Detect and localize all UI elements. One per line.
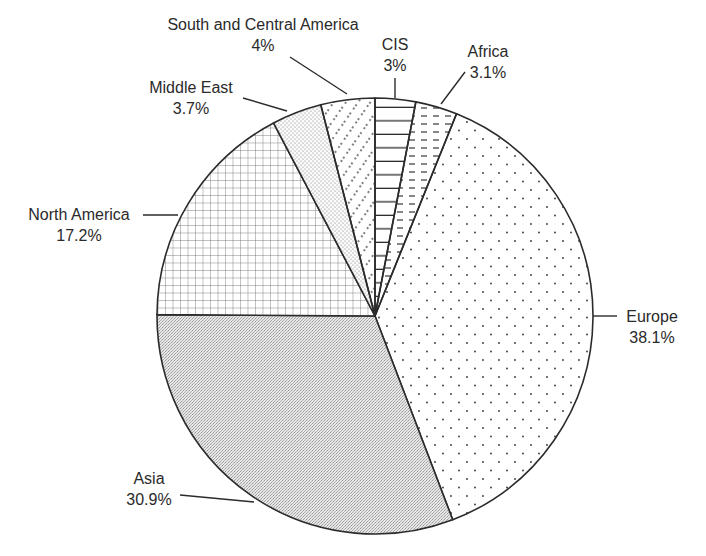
label-south-central-america: South and Central America 4% xyxy=(152,14,374,56)
label-middle-east-name: Middle East xyxy=(142,77,240,98)
label-asia: Asia 30.9% xyxy=(120,468,178,510)
label-asia-value: 30.9% xyxy=(120,489,178,510)
pie-slices xyxy=(157,98,593,534)
label-asia-name: Asia xyxy=(120,468,178,489)
label-middle-east: Middle East 3.7% xyxy=(142,77,240,119)
label-sca-value: 4% xyxy=(152,35,374,56)
label-europe: Europe 38.1% xyxy=(620,306,684,348)
label-africa-name: Africa xyxy=(458,41,518,62)
pie-chart xyxy=(0,0,706,556)
label-cis-value: 3% xyxy=(375,55,415,76)
label-europe-name: Europe xyxy=(620,306,684,327)
label-cis: CIS 3% xyxy=(375,34,415,76)
label-north-america: North America 17.2% xyxy=(18,204,140,246)
leader-line-asia xyxy=(180,495,254,502)
label-middle-east-value: 3.7% xyxy=(142,98,240,119)
leader-line-middle-east xyxy=(243,98,287,111)
label-north-america-name: North America xyxy=(18,204,140,225)
label-sca-name: South and Central America xyxy=(152,14,374,35)
label-north-america-value: 17.2% xyxy=(18,225,140,246)
label-africa-value: 3.1% xyxy=(458,62,518,83)
label-europe-value: 38.1% xyxy=(620,327,684,348)
label-africa: Africa 3.1% xyxy=(458,41,518,83)
label-cis-name: CIS xyxy=(375,34,415,55)
leader-line-sca xyxy=(290,57,347,94)
